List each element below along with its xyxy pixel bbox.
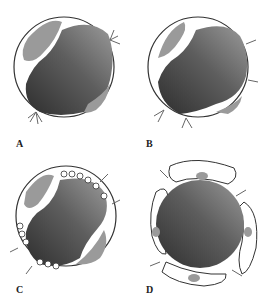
panel-label: D (146, 284, 153, 295)
panel-label: C (16, 284, 23, 295)
panel-label: A (16, 138, 23, 149)
cell-diagram-d (136, 152, 273, 292)
panel-d: D (136, 152, 273, 305)
panel-label: B (146, 138, 153, 149)
panel-b: B (136, 0, 273, 152)
cell-diagram-c (0, 152, 136, 292)
cell-diagram-a (0, 0, 136, 140)
panel-c: C (0, 152, 136, 305)
panel-a: A (0, 0, 136, 152)
cell-diagram-b (136, 0, 273, 140)
